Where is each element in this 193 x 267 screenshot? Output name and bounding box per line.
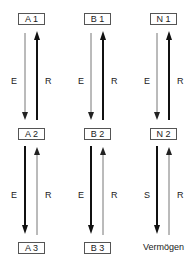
node-b2: B 2 (84, 128, 111, 140)
label-b-upper-down: E (78, 76, 84, 86)
label-a-lower-up: R (45, 190, 52, 200)
label-a-lower-down: E (11, 190, 17, 200)
label-n-upper-up: R (177, 76, 184, 86)
node-a1: A 1 (18, 13, 45, 25)
node-n2: N 2 (150, 128, 177, 140)
label-a-upper-down: E (11, 76, 17, 86)
node-b1: B 1 (84, 13, 111, 25)
node-a2: A 2 (18, 128, 45, 140)
label-n-upper-down: E (144, 76, 150, 86)
label-a-upper-up: R (45, 76, 52, 86)
node-a3: A 3 (18, 242, 45, 254)
label-n-lower-up: R (177, 190, 184, 200)
label-n-lower-down: S (144, 190, 150, 200)
node-b3: B 3 (84, 242, 111, 254)
node-vermoegen: Vermögen (143, 242, 183, 252)
label-b-lower-up: R (111, 190, 118, 200)
label-b-upper-up: R (111, 76, 118, 86)
node-n1: N 1 (150, 13, 177, 25)
label-b-lower-down: E (78, 190, 84, 200)
